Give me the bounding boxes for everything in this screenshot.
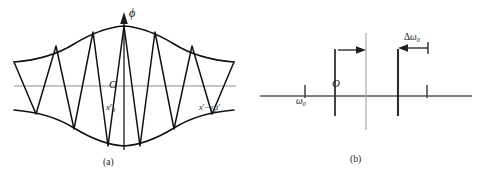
amplitude-label: xr0	[106, 103, 115, 114]
phi-axis-arrowhead	[120, 12, 128, 24]
caption-b: (b)	[350, 155, 361, 165]
horizontal-axis-label-a: x′−vgt′	[199, 103, 220, 113]
phi-axis-label: ϕ	[129, 7, 135, 19]
spacing-arrow-left-head	[356, 46, 366, 54]
origin-label-a: O	[109, 79, 117, 90]
panel-b-spectrum: O ω0 Δω0 (b)	[246, 0, 492, 180]
center-frequency-label: ω0	[296, 97, 306, 107]
frequency-spacing-label: Δω0	[404, 33, 420, 43]
panel-b-canvas	[246, 0, 492, 180]
panel-a-canvas	[0, 0, 246, 180]
caption-a: (a)	[103, 158, 114, 168]
panel-a-wave-packet: ϕ O xr0 x′−vgt′ (a)	[0, 0, 246, 180]
figure-root: ϕ O xr0 x′−vgt′ (a)	[0, 0, 492, 180]
spacing-arrow-right-head	[398, 44, 408, 52]
origin-label-b: O	[332, 78, 340, 89]
